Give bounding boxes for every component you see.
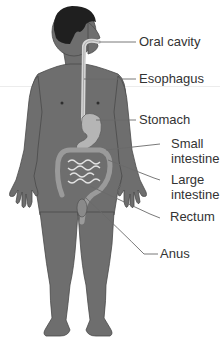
- arm-left: [10, 76, 43, 208]
- body-silhouette: [10, 8, 147, 336]
- label-rectum: Rectum: [170, 209, 215, 224]
- label-large-intestine: Large intestine: [171, 172, 219, 202]
- label-small-intestine: Small intestine: [171, 136, 219, 166]
- label-esophagus: Esophagus: [139, 71, 204, 86]
- arm-right: [114, 76, 147, 208]
- digestive-system-diagram: [0, 0, 220, 341]
- nipple-right: [97, 102, 100, 105]
- label-stomach: Stomach: [139, 112, 190, 127]
- torso: [30, 64, 126, 215]
- label-oral-cavity: Oral cavity: [139, 34, 200, 49]
- rectum-organ: [77, 199, 87, 217]
- leg-right: [78, 212, 114, 336]
- leg-left: [40, 212, 78, 336]
- nipple-left: [61, 102, 64, 105]
- label-anus: Anus: [160, 246, 190, 261]
